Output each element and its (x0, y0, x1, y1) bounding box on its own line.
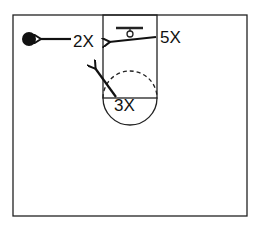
arrow-5x-cut (109, 37, 156, 42)
player-label-3x: 3X (114, 96, 135, 115)
player-label-5x: 5X (160, 28, 181, 47)
free-throw-circle-dashed (103, 71, 157, 98)
court-boundary (13, 15, 247, 216)
ball-icon (22, 32, 36, 46)
player-label-2x: 2X (73, 32, 94, 51)
basket-icon (127, 31, 133, 37)
arrow-3x-flash (95, 68, 116, 97)
court-diagram: 2X 5X 3X (0, 0, 257, 228)
